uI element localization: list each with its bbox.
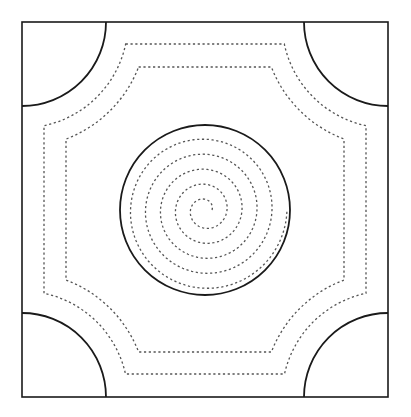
center-circle [120,125,290,295]
corner-arc-top-left [22,22,106,106]
dotted-octagon-outer [44,44,366,374]
dotted-spiral [130,139,287,288]
corner-arc-bottom-right [304,313,388,397]
corner-arc-bottom-left [22,313,106,397]
dotted-octagon-inner [66,67,344,352]
corner-arc-top-right [304,22,388,106]
diagram-canvas [0,0,411,417]
square-frame [22,22,388,397]
